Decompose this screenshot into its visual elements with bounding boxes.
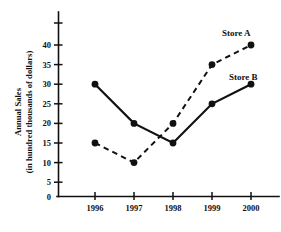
y-tick-label-20: 20 <box>43 118 52 128</box>
store-b-point-1999 <box>209 100 216 107</box>
y-axis-tick-labels: 40 35 30 25 20 15 10 5 0 <box>43 40 52 202</box>
series-annotations: Store A Store B <box>222 28 258 82</box>
store-a-point-1998 <box>170 120 177 127</box>
store-b-point-1996 <box>92 81 99 88</box>
y-tick-label-15: 15 <box>43 138 52 148</box>
x-tick-label-1997: 1997 <box>126 203 144 213</box>
y-axis-title-line2: (in hundred thousands of dollars) <box>24 51 34 174</box>
store-b-line <box>95 84 251 143</box>
store-a-point-1999 <box>209 61 216 68</box>
y-tick-label-5: 5 <box>47 177 51 187</box>
y-tick-label-0: 0 <box>47 192 51 202</box>
store-a-label: Store A <box>222 28 251 38</box>
x-tick-label-1996: 1996 <box>87 203 104 213</box>
store-b-label: Store B <box>229 72 258 82</box>
y-axis-title: Annual Sales (in hundred thousands of do… <box>13 51 34 174</box>
x-tick-label-1998: 1998 <box>165 203 182 213</box>
axes-group <box>57 12 279 197</box>
store-a-point-1997 <box>131 159 138 166</box>
store-a-point-2000 <box>248 42 255 49</box>
y-axis-title-line1: Annual Sales <box>13 87 23 136</box>
y-tick-label-25: 25 <box>43 99 52 109</box>
x-tick-label-2000: 2000 <box>243 203 260 213</box>
store-b-point-1997 <box>131 120 138 127</box>
series-store-b <box>92 81 255 147</box>
x-axis-tick-labels: 1996 1997 1998 1999 2000 <box>87 203 260 213</box>
y-tick-label-30: 30 <box>43 79 52 89</box>
y-tick-label-40: 40 <box>43 40 52 50</box>
chart-figure: 40 35 30 25 20 15 10 5 0 1996 1997 1998 … <box>0 0 281 232</box>
y-tick-label-35: 35 <box>43 60 52 70</box>
line-chart-canvas: 40 35 30 25 20 15 10 5 0 1996 1997 1998 … <box>0 0 281 232</box>
store-b-point-1998 <box>170 140 177 147</box>
store-a-point-1996 <box>92 140 99 147</box>
y-tick-label-10: 10 <box>43 158 52 168</box>
x-tick-label-1999: 1999 <box>204 203 221 213</box>
